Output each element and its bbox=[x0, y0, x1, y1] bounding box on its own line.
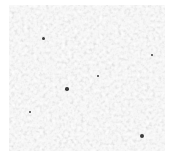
noise-texture-svg bbox=[9, 5, 165, 151]
noise-texture bbox=[9, 5, 165, 151]
dark-speck bbox=[42, 37, 45, 40]
dark-speck bbox=[65, 87, 69, 91]
dark-speck bbox=[140, 134, 144, 138]
